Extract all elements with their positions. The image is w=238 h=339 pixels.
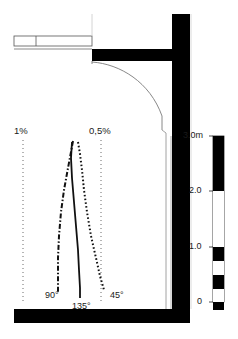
scale-segment-05-to-025 [213, 275, 224, 289]
label-one-percent: 1% [14, 126, 28, 136]
vault-arc-return [162, 130, 166, 309]
scale-segment-1-to-075 [213, 247, 224, 261]
scale-segment-3-to-2 [213, 136, 224, 191]
scale-segment-2-to-1 [213, 191, 224, 247]
curve-135-degrees [71, 142, 80, 298]
section-drawing-canvas: 1% 0,5% 90° 135° 45° 3.0m 2.0 1.0 0 [0, 0, 238, 339]
scale-segment-zero-cap [213, 302, 224, 310]
building-structure [14, 14, 191, 323]
scale-label-3m: 3.0m [183, 131, 203, 140]
scale-bar [209, 136, 224, 310]
right-wall [172, 14, 190, 323]
label-angle-90: 90° [45, 291, 59, 300]
window-sill-outline [14, 36, 92, 46]
label-half-percent: 0,5% [89, 126, 111, 136]
floor-slab [14, 309, 190, 323]
ceiling-beam [92, 49, 172, 61]
curve-45-degrees [78, 142, 104, 290]
scale-label-1: 1.0 [189, 242, 202, 251]
scale-label-2: 2.0 [189, 186, 202, 195]
profile-curves [58, 141, 104, 298]
label-angle-135: 135° [72, 302, 91, 311]
vault-arc [92, 61, 166, 309]
drawing-layer [0, 0, 238, 339]
window-sill-assembly [14, 14, 92, 49]
scale-label-0: 0 [197, 297, 202, 306]
vault-arc-path [92, 62, 162, 130]
scale-segment-075-to-05 [213, 261, 224, 275]
scale-segment-025-to-0 [213, 289, 224, 302]
label-angle-45: 45° [110, 291, 124, 300]
